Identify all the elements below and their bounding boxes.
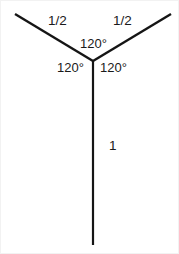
geometry-diagram-canvas: 1/2 1/2 1 120° 120° 120° bbox=[0, 0, 179, 254]
left-arm-length-label: 1/2 bbox=[48, 13, 67, 28]
vertical-stem-length-label: 1 bbox=[109, 138, 117, 153]
top-angle-label: 120° bbox=[80, 36, 107, 51]
right-arm-length-label: 1/2 bbox=[113, 13, 132, 28]
left-angle-label: 120° bbox=[57, 60, 84, 75]
right-angle-label: 120° bbox=[100, 60, 127, 75]
